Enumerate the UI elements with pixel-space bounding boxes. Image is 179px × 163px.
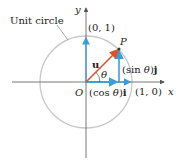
- diagram-canvas: Unit circle y x (0, 1) (1, 0) P O u θ (s…: [0, 0, 179, 163]
- point-p-label: P: [119, 36, 127, 47]
- cos-component-label: (cos θ)i: [89, 87, 127, 98]
- y-axis-label: y: [74, 4, 81, 15]
- unit-circle-diagram: Unit circle y x (0, 1) (1, 0) P O u θ (s…: [0, 0, 179, 163]
- point-0-1-label: (0, 1): [88, 22, 115, 33]
- angle-theta-label: θ: [101, 69, 107, 80]
- unit-circle-pointer: [57, 25, 68, 40]
- point-1-0-label: (1, 0): [135, 86, 162, 97]
- sin-component-label: (sin θ)j: [122, 64, 157, 75]
- origin-label: O: [75, 87, 83, 98]
- vector-u-label: u: [92, 59, 99, 70]
- unit-circle-label: Unit circle: [10, 15, 64, 26]
- angle-arc: [96, 72, 100, 82]
- x-axis-label: x: [168, 86, 174, 97]
- point-p-dot: [118, 48, 121, 51]
